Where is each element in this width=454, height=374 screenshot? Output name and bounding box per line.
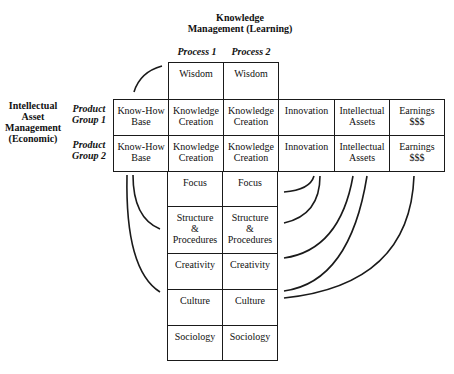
connector-curves — [0, 0, 454, 374]
